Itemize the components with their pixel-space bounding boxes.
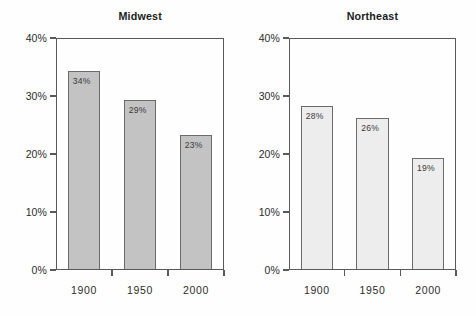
- bar-northeast-1900: 28%: [301, 106, 333, 268]
- y-axis-tick: [283, 37, 289, 38]
- bar-northeast-1950: 26%: [356, 118, 388, 269]
- x-axis-label-1900: 1900: [304, 284, 330, 296]
- y-axis-label-10pct: 10%: [26, 206, 47, 218]
- x-axis-label-2000: 2000: [415, 284, 441, 296]
- y-axis-label-0pct: 0%: [32, 264, 47, 276]
- y-axis-tick: [50, 269, 56, 270]
- y-axis-label-40pct: 40%: [26, 32, 47, 44]
- bar-northeast-2000: 19%: [412, 158, 444, 268]
- x-axis-tick: [223, 270, 224, 276]
- chart-figure: Midwest 0%10%20%30%40%34%190029%195023%2…: [0, 0, 476, 316]
- y-axis-label-30pct: 30%: [26, 90, 47, 102]
- frame-line-top: [289, 38, 456, 39]
- y-axis-tick: [50, 95, 56, 96]
- frame-line-top: [56, 38, 224, 39]
- y-axis-tick: [50, 211, 56, 212]
- axis-line-bottom: [289, 269, 456, 270]
- x-axis-label-1950: 1950: [127, 284, 153, 296]
- panel-title-northeast: Northeast: [247, 10, 476, 22]
- bar-midwest-1950: 29%: [124, 100, 156, 268]
- plot-area-northeast: 0%10%20%30%40%28%190026%195019%2000: [289, 38, 456, 270]
- bar-value-label: 19%: [417, 163, 435, 173]
- x-axis-tick: [111, 270, 112, 276]
- x-axis-tick: [400, 270, 401, 276]
- x-axis-label-1950: 1950: [360, 284, 386, 296]
- bar-value-label: 26%: [361, 123, 379, 133]
- bar-midwest-2000: 23%: [180, 135, 212, 268]
- axis-line-left: [56, 38, 57, 270]
- bar-value-label: 28%: [306, 111, 324, 121]
- y-axis-label-0pct: 0%: [265, 264, 280, 276]
- y-axis-tick: [283, 153, 289, 154]
- bar-value-label: 23%: [185, 140, 203, 150]
- frame-line-right: [455, 38, 456, 270]
- bar-value-label: 29%: [129, 105, 147, 115]
- x-axis-tick: [455, 270, 456, 276]
- axis-line-bottom: [56, 269, 224, 270]
- y-axis-tick: [50, 37, 56, 38]
- axis-line-left: [289, 38, 290, 270]
- y-axis-label-40pct: 40%: [259, 32, 280, 44]
- y-axis-tick: [283, 95, 289, 96]
- y-axis-tick: [50, 153, 56, 154]
- x-axis-label-2000: 2000: [183, 284, 209, 296]
- bar-midwest-1900: 34%: [68, 71, 100, 268]
- y-axis-label-20pct: 20%: [259, 148, 280, 160]
- y-axis-tick: [283, 211, 289, 212]
- x-axis-tick: [167, 270, 168, 276]
- bar-value-label: 34%: [73, 76, 91, 86]
- x-axis-label-1900: 1900: [71, 284, 97, 296]
- y-axis-label-30pct: 30%: [259, 90, 280, 102]
- y-axis-tick: [283, 269, 289, 270]
- plot-area-midwest: 0%10%20%30%40%34%190029%195023%2000: [56, 38, 224, 270]
- y-axis-label-20pct: 20%: [26, 148, 47, 160]
- panel-title-midwest: Midwest: [9, 10, 251, 22]
- chart-panel-northeast: Northeast 0%10%20%30%40%28%190026%195019…: [238, 0, 476, 316]
- y-axis-label-10pct: 10%: [259, 206, 280, 218]
- frame-line-right: [223, 38, 224, 270]
- x-axis-tick: [344, 270, 345, 276]
- chart-panel-midwest: Midwest 0%10%20%30%40%34%190029%195023%2…: [0, 0, 238, 316]
